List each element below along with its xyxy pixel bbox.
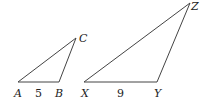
vertex-label-z: Z <box>190 0 199 13</box>
vertex-label-c: C <box>79 32 88 45</box>
vertex-label-y: Y <box>154 87 163 100</box>
vertex-label-a: A <box>13 87 22 100</box>
triangle-abc: A 5 B C <box>13 32 88 100</box>
side-label-xy: 9 <box>117 87 124 100</box>
vertex-label-b: B <box>54 87 63 100</box>
triangle-xyz: X 9 Y Z <box>80 0 199 100</box>
vertex-label-x: X <box>80 87 90 100</box>
triangle-abc-shape <box>18 38 76 82</box>
diagram-canvas: A 5 B C X 9 Y Z <box>0 0 200 101</box>
side-label-ab: 5 <box>35 87 42 100</box>
triangle-xyz-shape <box>84 3 190 82</box>
